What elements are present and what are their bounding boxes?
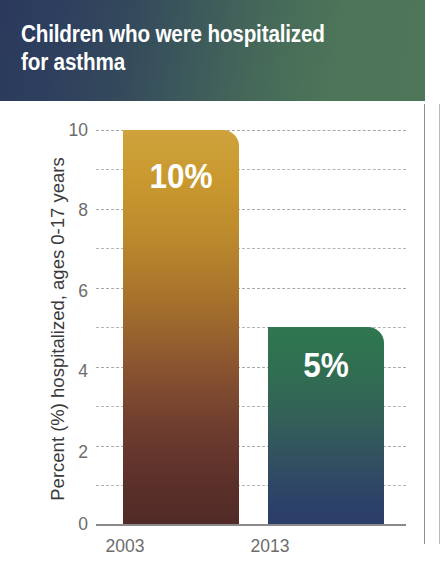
bar-value-2013: 5%	[274, 347, 378, 382]
y-tick-4: 4	[48, 363, 88, 381]
x-axis-label-2013: 2013	[195, 536, 345, 557]
x-axis-label-2003: 2003	[50, 536, 200, 557]
page-edge-rule-inner	[424, 104, 425, 544]
y-tick-6: 6	[48, 283, 88, 301]
x-axis-line	[96, 524, 406, 526]
y-tick-8: 8	[48, 202, 88, 220]
chart-page: Children who were hospitalized for asthm…	[0, 0, 442, 576]
bar-2003[interactable]: 10%	[123, 130, 239, 524]
chart-header-banner: Children who were hospitalized for asthm…	[0, 0, 425, 101]
bar-2013[interactable]: 5%	[268, 327, 384, 524]
y-tick-2: 2	[48, 444, 88, 462]
y-tick-10: 10	[48, 122, 88, 140]
bar-value-2003: 10%	[129, 158, 233, 193]
y-tick-0: 0	[48, 516, 88, 534]
page-edge-rule-outer	[439, 104, 440, 544]
chart-title: Children who were hospitalized for asthm…	[21, 20, 364, 76]
plot-area: 10% 5%	[96, 120, 406, 525]
y-axis-tick-labels: 10 8 6 4 2 0	[44, 120, 88, 525]
